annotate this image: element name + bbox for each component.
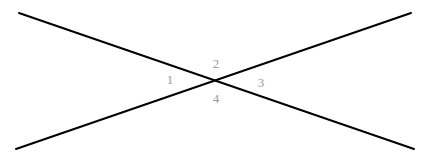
intersecting-lines-svg <box>0 0 425 164</box>
angle-label-2: 2 <box>213 57 220 70</box>
geometry-figure: 1 2 3 4 <box>0 0 425 164</box>
angle-label-4: 4 <box>213 92 220 105</box>
angle-label-1: 1 <box>167 73 174 86</box>
angle-label-3: 3 <box>258 76 265 89</box>
